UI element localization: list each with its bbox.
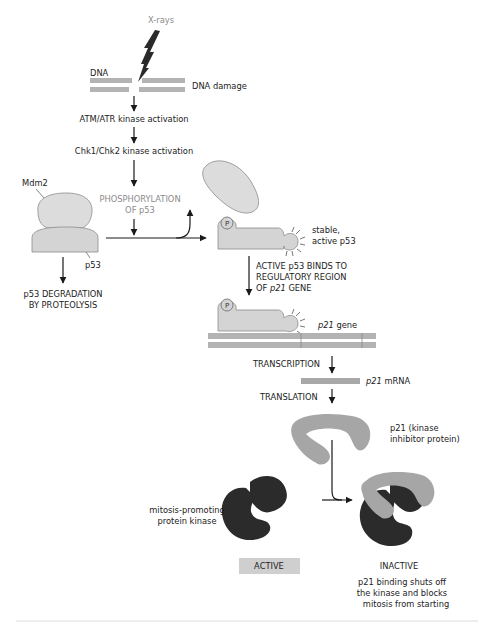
caption-line2: the kinase and blocks	[357, 588, 447, 598]
mdm2-label: Mdm2	[22, 178, 48, 188]
p21-line2: inhibitor protein)	[390, 434, 460, 444]
atm-atr-label: ATM/ATR kinase activation	[79, 114, 188, 124]
arrow-p21-binding	[332, 440, 352, 500]
p53-bound-protein	[32, 227, 98, 252]
transcription-label: TRANSCRIPTION	[252, 359, 320, 369]
p53-pathway-diagram: X-rays DNA DNA damage ATM/ATR kinase act…	[0, 0, 478, 629]
xrays-label: X-rays	[148, 15, 174, 25]
binds-line2: REGULATORY REGION	[256, 272, 347, 282]
mdm2-protein	[38, 193, 92, 228]
damaged-dna	[90, 78, 185, 92]
arrow-mdm2-release	[176, 210, 190, 238]
svg-text:P: P	[225, 302, 229, 310]
active-kinase	[222, 476, 287, 540]
stable-line1: stable,	[312, 225, 340, 235]
phosphate-p-label: P	[225, 220, 229, 228]
phosphorylation-line1: PHOSPHORYLATION	[99, 194, 180, 204]
chk-label: Chk1/Chk2 kinase activation	[75, 146, 193, 156]
p21-protein	[291, 414, 370, 465]
caption-line1: p21 binding shuts off	[358, 577, 446, 587]
translation-label: TRANSLATION	[259, 392, 318, 402]
active-label: ACTIVE	[254, 561, 284, 571]
caption-line3: mitosis from starting	[363, 599, 449, 609]
lightning-bolt-icon	[138, 30, 160, 82]
released-mdm2-protein	[203, 161, 259, 213]
degradation-line2: BY PROTEOLYSIS	[29, 300, 98, 310]
binds-line1: ACTIVE p53 BINDS TO	[256, 261, 348, 271]
inactive-kinase-complex	[360, 472, 435, 546]
p21-gene-dna	[208, 333, 376, 348]
stable-line2: active p53	[312, 236, 356, 246]
phosphorylation-line2: OF p53	[125, 205, 155, 215]
kinase-line2: protein kinase	[157, 516, 216, 526]
p53-bound-to-gene: P	[218, 299, 305, 337]
inactive-label: INACTIVE	[380, 561, 418, 571]
dna-damage-label: DNA damage	[192, 81, 247, 91]
binds-line3: OF p21 GENE	[256, 283, 312, 293]
p53-label: p53	[85, 260, 101, 270]
degradation-line1: p53 DEGRADATION	[23, 289, 102, 299]
p21-mrna-label: p21 mRNA	[365, 376, 411, 386]
p21-gene-label: p21 gene	[317, 320, 357, 330]
kinase-line1: mitosis-promoting	[149, 505, 224, 515]
p21-mrna	[301, 378, 360, 384]
p21-line1: p21 (kinase	[390, 423, 439, 433]
stable-active-p53: P	[218, 217, 305, 256]
dna-label: DNA	[90, 68, 109, 78]
